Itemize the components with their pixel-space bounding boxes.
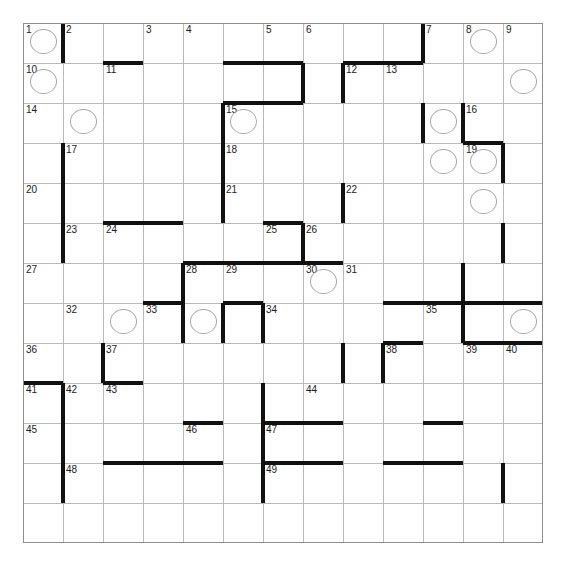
- grid-cell[interactable]: 34: [263, 303, 303, 343]
- cell-number: 36: [26, 344, 37, 355]
- wall-vertical: [181, 303, 185, 343]
- wall-vertical: [461, 303, 465, 343]
- wall-horizontal: [223, 301, 263, 305]
- wall-horizontal: [183, 261, 223, 265]
- puzzle-grid[interactable]: 1234567891011121314151617181920212223242…: [23, 23, 543, 543]
- grid-cell[interactable]: 4: [183, 23, 223, 63]
- circled-cell: [103, 303, 143, 343]
- grid-cell[interactable]: 18: [223, 143, 263, 183]
- wall-horizontal: [263, 421, 303, 425]
- grid-cell[interactable]: 13: [383, 63, 423, 103]
- grid-cell[interactable]: 28: [183, 263, 223, 303]
- wall-horizontal: [143, 461, 183, 465]
- grid-cell[interactable]: 3: [143, 23, 183, 63]
- grid-cell[interactable]: 37: [103, 343, 143, 383]
- grid-cell[interactable]: 21: [223, 183, 263, 223]
- wall-vertical: [61, 183, 65, 223]
- wall-vertical: [341, 63, 345, 103]
- grid-cell[interactable]: 33: [143, 303, 183, 343]
- grid-line-horizontal: [23, 503, 543, 504]
- cell-number: 22: [346, 184, 357, 195]
- wall-vertical: [221, 143, 225, 183]
- wall-vertical: [61, 23, 65, 63]
- wall-vertical: [261, 463, 265, 503]
- cell-number: 32: [66, 304, 77, 315]
- grid-cell[interactable]: 31: [343, 263, 383, 303]
- grid-cell[interactable]: 41: [23, 383, 63, 423]
- grid-cell[interactable]: 39: [463, 343, 503, 383]
- wall-vertical: [221, 303, 225, 343]
- cell-number: 46: [186, 424, 197, 435]
- cell-number: 18: [226, 144, 237, 155]
- circled-cell: [303, 263, 343, 303]
- wall-vertical: [461, 103, 465, 143]
- grid-cell[interactable]: 32: [63, 303, 103, 343]
- grid-cell[interactable]: 11: [103, 63, 143, 103]
- cell-number: 21: [226, 184, 237, 195]
- cell-number: 9: [506, 24, 512, 35]
- circled-cell: [423, 103, 463, 143]
- cell-number: 45: [26, 424, 37, 435]
- grid-cell[interactable]: 26: [303, 223, 343, 263]
- circle-marker-icon: [30, 69, 57, 94]
- grid-cell[interactable]: 12: [343, 63, 383, 103]
- grid-cell[interactable]: 48: [63, 463, 103, 503]
- grid-line-vertical: [423, 23, 424, 543]
- grid-cell[interactable]: 46: [183, 423, 223, 463]
- cell-number: 29: [226, 264, 237, 275]
- grid-cell[interactable]: 2: [63, 23, 103, 63]
- grid-cell[interactable]: 7: [423, 23, 463, 63]
- cell-number: 39: [466, 344, 477, 355]
- grid-cell[interactable]: 22: [343, 183, 383, 223]
- cell-number: 7: [426, 24, 432, 35]
- wall-horizontal: [263, 101, 303, 105]
- cell-number: 11: [106, 64, 116, 75]
- cell-number: 42: [66, 384, 77, 395]
- cell-number: 25: [266, 224, 277, 235]
- grid-cell[interactable]: 40: [503, 343, 543, 383]
- grid-cell[interactable]: 16: [463, 103, 503, 143]
- cell-number: 16: [466, 104, 477, 115]
- grid-cell[interactable]: 36: [23, 343, 63, 383]
- circle-marker-icon: [470, 189, 497, 214]
- grid-line-vertical: [143, 23, 144, 543]
- cell-number: 41: [26, 384, 37, 395]
- grid-cell[interactable]: 17: [63, 143, 103, 183]
- grid-cell[interactable]: 27: [23, 263, 63, 303]
- grid-cell[interactable]: 25: [263, 223, 303, 263]
- cell-number: 48: [66, 464, 77, 475]
- wall-horizontal: [143, 221, 183, 225]
- grid-cell[interactable]: 35: [423, 303, 463, 343]
- cell-number: 2: [66, 24, 72, 35]
- grid-cell[interactable]: 47: [263, 423, 303, 463]
- cell-number: 12: [346, 64, 357, 75]
- wall-vertical: [381, 343, 385, 383]
- circled-cell: [63, 103, 103, 143]
- grid-cell[interactable]: 23: [63, 223, 103, 263]
- cell-number: 40: [506, 344, 517, 355]
- grid-cell[interactable]: 29: [223, 263, 263, 303]
- cell-number: 31: [346, 264, 357, 275]
- grid-cell[interactable]: 43: [103, 383, 143, 423]
- grid-cell[interactable]: 44: [303, 383, 343, 423]
- wall-horizontal: [463, 141, 503, 145]
- circle-marker-icon: [230, 109, 257, 134]
- cell-number: 43: [106, 384, 117, 395]
- circle-marker-icon: [430, 109, 457, 134]
- grid-cell[interactable]: 49: [263, 463, 303, 503]
- grid-cell[interactable]: 24: [103, 223, 143, 263]
- wall-horizontal: [103, 221, 143, 225]
- circle-marker-icon: [310, 269, 337, 294]
- wall-vertical: [181, 263, 185, 303]
- grid-cell[interactable]: 20: [23, 183, 63, 223]
- wall-horizontal: [183, 421, 223, 425]
- grid-cell[interactable]: 38: [383, 343, 423, 383]
- cell-number: 13: [386, 64, 397, 75]
- grid-cell[interactable]: 5: [263, 23, 303, 63]
- wall-vertical: [261, 423, 265, 463]
- grid-cell[interactable]: 6: [303, 23, 343, 63]
- grid-cell[interactable]: 9: [503, 23, 543, 63]
- grid-cell[interactable]: 45: [23, 423, 63, 463]
- grid-cell[interactable]: 14: [23, 103, 63, 143]
- grid-cell[interactable]: 42: [63, 383, 103, 423]
